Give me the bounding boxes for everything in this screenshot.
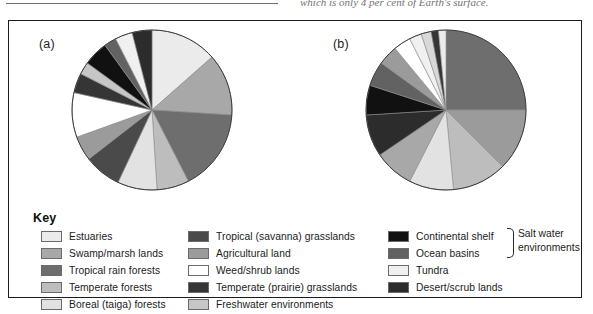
key-swatch-icon	[388, 231, 409, 242]
panel-label-b: (b)	[333, 37, 349, 51]
key-item: Desert/scrub lands	[388, 280, 538, 295]
brace-bracket-icon	[507, 228, 514, 258]
key-item-label: Swamp/marsh lands	[69, 248, 163, 259]
salt-water-annotation: Salt water environments	[507, 226, 593, 262]
caption-text-fragment: which is only 4 per cent of Earth's surf…	[300, 0, 590, 10]
key-item: Temperate forests	[41, 280, 211, 295]
horizontal-rule	[6, 3, 278, 4]
key-item: Tropical rain forests	[41, 263, 211, 278]
pie-slice	[446, 30, 526, 110]
key-swatch-icon	[41, 248, 62, 259]
key-swatch-icon	[388, 282, 409, 293]
key-swatch-icon	[41, 231, 62, 242]
pie-chart-a	[69, 27, 235, 193]
key-swatch-icon	[41, 299, 62, 310]
key-item-label: Desert/scrub lands	[416, 282, 503, 293]
key-item-label: Freshwater environments	[216, 299, 333, 310]
key-item: Estuaries	[41, 229, 211, 244]
key-item: Weed/shrub lands	[188, 263, 398, 278]
panel-label-a: (a)	[39, 37, 55, 51]
key-item-label: Weed/shrub lands	[216, 265, 300, 276]
salt-water-line-1: Salt water	[518, 228, 564, 239]
key-column-2: Tropical (savanna) grasslandsAgricultura…	[188, 229, 398, 314]
key-item-label: Boreal (taiga) forests	[69, 299, 166, 310]
pie-chart-panel-b: (b)	[327, 27, 557, 207]
key-item-label: Agricultural land	[216, 248, 291, 259]
key-item-label: Tundra	[416, 265, 449, 276]
key-item: Boreal (taiga) forests	[41, 297, 211, 312]
key-swatch-icon	[188, 231, 209, 242]
key-item: Swamp/marsh lands	[41, 246, 211, 261]
key-item-label: Estuaries	[69, 231, 112, 242]
key-swatch-icon	[388, 248, 409, 259]
key-item: Agricultural land	[188, 246, 398, 261]
key-swatch-icon	[188, 282, 209, 293]
key-item-label: Continental shelf	[416, 231, 494, 242]
key-swatch-icon	[188, 265, 209, 276]
key-title: Key	[33, 211, 56, 225]
key-item-label: Tropical rain forests	[69, 265, 160, 276]
key-item: Tropical (savanna) grasslands	[188, 229, 398, 244]
key-column-1: EstuariesSwamp/marsh landsTropical rain …	[41, 229, 211, 314]
pie-chart-b	[363, 27, 529, 193]
key-item: Tundra	[388, 263, 538, 278]
key-item: Freshwater environments	[188, 297, 398, 312]
key-item-label: Tropical (savanna) grasslands	[216, 231, 355, 242]
key-item: Temperate (prairie) grasslands	[188, 280, 398, 295]
key-item-label: Ocean basins	[416, 248, 480, 259]
key-swatch-icon	[41, 282, 62, 293]
key-swatch-icon	[188, 248, 209, 259]
pie-chart-panel-a: (a)	[33, 27, 263, 207]
salt-water-label: Salt water environments	[518, 227, 580, 255]
key-item-label: Temperate forests	[69, 282, 152, 293]
key-swatch-icon	[388, 265, 409, 276]
page-scan-header: which is only 4 per cent of Earth's surf…	[0, 0, 593, 22]
figure-frame: (a) (b) Key EstuariesSwamp/marsh landsTr…	[8, 20, 582, 298]
chart-key: Key EstuariesSwamp/marsh landsTropical r…	[33, 211, 573, 295]
key-swatch-icon	[188, 299, 209, 310]
key-swatch-icon	[41, 265, 62, 276]
key-item-label: Temperate (prairie) grasslands	[216, 282, 357, 293]
salt-water-line-2: environments	[518, 242, 580, 253]
